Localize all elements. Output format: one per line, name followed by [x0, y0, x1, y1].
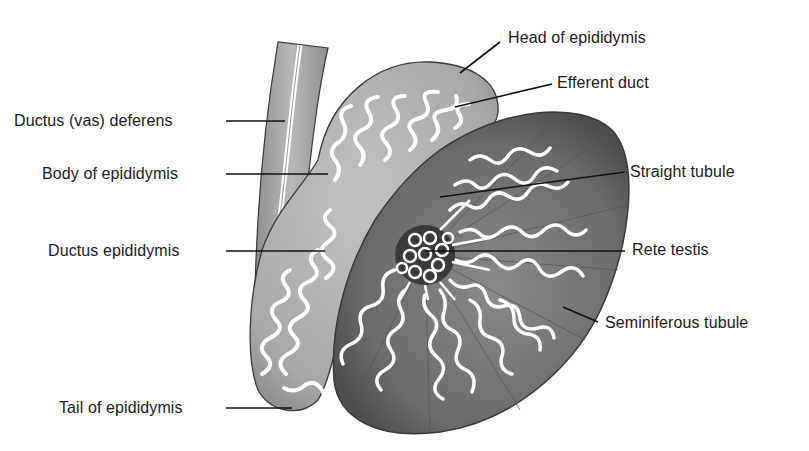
testis-epididymis-diagram: Head of epididymis Efferent duct Ductus … — [0, 0, 809, 451]
label-seminiferous-tubule: Seminiferous tubule — [605, 314, 748, 332]
label-ductus-deferens: Ductus (vas) deferens — [14, 112, 173, 130]
label-straight-tubule: Straight tubule — [630, 163, 735, 181]
label-body-of-epididymis: Body of epididymis — [42, 165, 178, 183]
label-tail-of-epididymis: Tail of epididymis — [59, 399, 183, 417]
label-head-of-epididymis: Head of epididymis — [508, 29, 646, 47]
label-rete-testis: Rete testis — [632, 241, 709, 259]
label-ductus-epididymis: Ductus epididymis — [48, 242, 180, 260]
label-efferent-duct: Efferent duct — [557, 74, 649, 92]
anatomy-illustration — [0, 0, 809, 451]
